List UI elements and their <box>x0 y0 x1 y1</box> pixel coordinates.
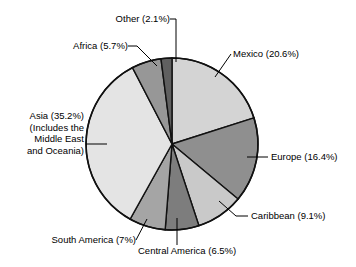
slice-label-caribbean: Caribbean (9.1%) <box>251 210 355 222</box>
slice-label-asia-line-2: (Includes the <box>0 122 84 134</box>
slice-label-other: Other (2.1%) <box>72 13 170 25</box>
leader-line-other <box>170 19 176 62</box>
pie-chart-figure: Other (2.1%) Africa (5.7%) Mexico (20.6%… <box>0 0 356 267</box>
slice-label-europe: Europe (16.4%) <box>271 151 355 163</box>
leader-line-mexico <box>215 54 231 77</box>
slice-label-asia: Asia (35.2%) (Includes the Middle East a… <box>0 110 84 156</box>
slice-label-asia-line-3: Middle East <box>0 133 84 145</box>
slice-label-mexico: Mexico (20.6%) <box>233 48 343 60</box>
slice-label-africa: Africa (5.7%) <box>30 40 128 52</box>
slice-label-asia-line-1: Asia (35.2%) <box>0 110 84 122</box>
slice-label-asia-line-4: and Oceania) <box>0 145 84 157</box>
pie-slices <box>86 58 258 230</box>
slice-label-central-america: Central America (6.5%) <box>138 245 278 257</box>
slice-label-south-america: South America (7%) <box>20 234 136 246</box>
